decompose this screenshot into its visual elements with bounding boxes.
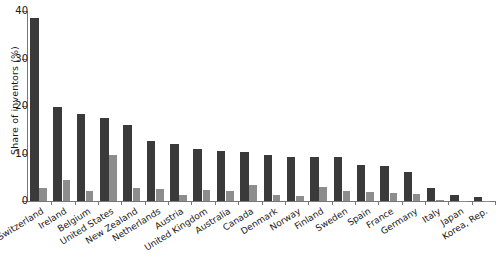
bar-dark	[53, 107, 62, 201]
y-tick-label: 20	[8, 100, 28, 111]
bar-group	[472, 11, 495, 201]
bar-chart-figure: Share of inventors (%) 010203040 Switzer…	[0, 0, 498, 279]
bar-group	[75, 11, 98, 201]
y-tick-label: 30	[8, 53, 28, 64]
bar-group	[308, 11, 331, 201]
y-tick-label: 0	[8, 195, 28, 206]
bar-group	[98, 11, 121, 201]
bar-group	[378, 11, 401, 201]
bar-light	[39, 188, 47, 201]
bar-group	[285, 11, 308, 201]
bar-group	[448, 11, 471, 201]
bar-group	[145, 11, 168, 201]
y-tick-label: 10	[8, 148, 28, 159]
y-tick-label: 40	[8, 5, 28, 16]
bar-group	[332, 11, 355, 201]
bar-group	[28, 11, 51, 201]
bar-group	[168, 11, 191, 201]
bar-group	[215, 11, 238, 201]
bar-group	[355, 11, 378, 201]
bar-group	[191, 11, 214, 201]
bar-dark	[30, 18, 39, 201]
bar-group	[121, 11, 144, 201]
bar-group	[51, 11, 74, 201]
bar-dark	[100, 118, 109, 201]
bar-group	[425, 11, 448, 201]
bar-dark	[123, 125, 132, 201]
bar-group	[402, 11, 425, 201]
